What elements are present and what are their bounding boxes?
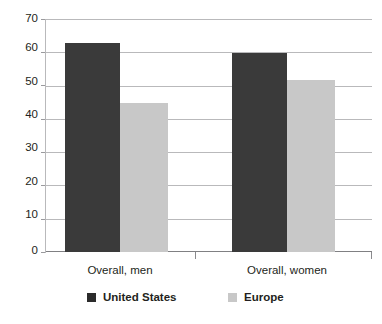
y-tick-label-40: 40 (4, 109, 38, 121)
legend-label-europe: Europe (244, 292, 284, 304)
bar-europe-overall-men (120, 103, 168, 252)
bar-europe-overall-women (287, 80, 335, 252)
gridline-70 (46, 19, 372, 20)
y-tick-label-50: 50 (4, 76, 38, 88)
category-tick (371, 252, 372, 259)
legend-item-europe: Europe (228, 292, 284, 304)
plot-area (46, 19, 372, 252)
y-tick-label-20: 20 (4, 176, 38, 188)
legend-swatch-icon-europe (228, 293, 237, 302)
bar-chart: 70 60 50 40 30 20 10 0 (0, 0, 382, 324)
y-tick-label-70: 70 (4, 13, 38, 25)
chart-title (0, 0, 382, 5)
legend-swatch-icon-united-states (87, 293, 96, 302)
y-tick-label-10: 10 (4, 209, 38, 221)
category-tick (195, 252, 196, 259)
chart-legend: United States Europe (0, 292, 382, 308)
y-tick-label-0: 0 (4, 245, 38, 257)
category-label-overall-women: Overall, women (222, 264, 352, 276)
bar-united-states-overall-men (65, 43, 120, 252)
y-tick-label-60: 60 (4, 42, 38, 54)
bar-united-states-overall-women (232, 53, 287, 252)
legend-label-united-states: United States (103, 292, 177, 304)
y-tick-label-30: 30 (4, 142, 38, 154)
category-label-overall-men: Overall, men (55, 264, 185, 276)
legend-item-united-states: United States (87, 292, 177, 304)
